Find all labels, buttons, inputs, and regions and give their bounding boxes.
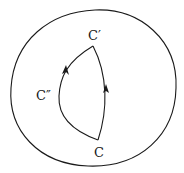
label-c-double-prime: C″: [36, 88, 51, 103]
diagram-canvas: C′ C″ C: [0, 0, 184, 173]
right-arc: [93, 46, 105, 140]
label-c: C: [94, 145, 104, 160]
left-arc: [59, 46, 98, 140]
label-c-prime: C′: [88, 28, 101, 43]
arrow-up-left-icon: [62, 65, 69, 75]
